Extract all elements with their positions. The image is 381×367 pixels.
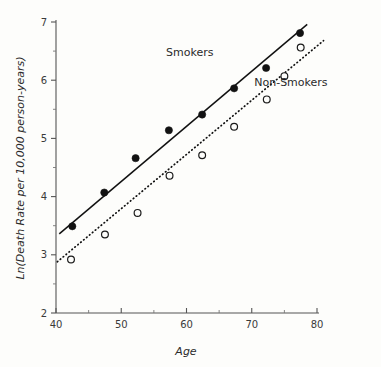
annotation-non-smokers: Non-Smokers bbox=[254, 76, 328, 89]
y-tick-label: 4 bbox=[41, 191, 47, 202]
axis-ticks bbox=[51, 22, 317, 313]
data-point-smokers bbox=[69, 223, 76, 230]
data-point-non-smokers bbox=[231, 123, 238, 130]
data-point-smokers bbox=[132, 155, 139, 162]
data-point-non-smokers bbox=[199, 152, 206, 159]
tick-labels: 2345674050607080 bbox=[41, 17, 324, 331]
chart-figure: 2345674050607080 SmokersNon-Smokers Age … bbox=[0, 0, 381, 367]
x-tick-label: 70 bbox=[245, 319, 258, 330]
y-tick-label: 2 bbox=[41, 308, 47, 319]
regression-lines bbox=[57, 24, 323, 261]
data-point-smokers bbox=[199, 111, 206, 118]
y-tick-label: 6 bbox=[41, 75, 47, 86]
y-tick-label: 3 bbox=[41, 249, 47, 260]
data-point-smokers bbox=[296, 29, 303, 36]
data-point-smokers bbox=[231, 85, 238, 92]
data-point-non-smokers bbox=[297, 44, 304, 51]
data-point-non-smokers bbox=[102, 231, 109, 238]
data-point-non-smokers bbox=[68, 256, 75, 263]
data-point-smokers bbox=[165, 127, 172, 134]
x-tick-label: 60 bbox=[180, 319, 193, 330]
y-axis-title: Ln(Death Rate per 10,000 person-years) bbox=[14, 56, 27, 279]
y-tick-label: 7 bbox=[41, 17, 47, 28]
data-point-non-smokers bbox=[134, 209, 141, 216]
x-tick-label: 40 bbox=[50, 319, 63, 330]
series-annotations: SmokersNon-Smokers bbox=[166, 46, 328, 89]
data-point-smokers bbox=[101, 189, 108, 196]
x-tick-label: 50 bbox=[115, 319, 128, 330]
annotation-smokers: Smokers bbox=[166, 46, 214, 59]
axes bbox=[56, 20, 319, 313]
y-tick-label: 5 bbox=[41, 133, 47, 144]
x-axis-title: Age bbox=[174, 345, 197, 358]
x-tick-label: 80 bbox=[311, 319, 324, 330]
data-point-non-smokers bbox=[166, 172, 173, 179]
data-points bbox=[68, 29, 304, 262]
data-point-smokers bbox=[263, 64, 270, 71]
data-point-non-smokers bbox=[263, 96, 270, 103]
scatter-plot: 2345674050607080 SmokersNon-Smokers Age … bbox=[0, 0, 381, 367]
